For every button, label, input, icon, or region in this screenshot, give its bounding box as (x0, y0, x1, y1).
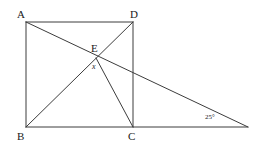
figure-segments (26, 22, 248, 127)
geometry-figure: A D E B C x 25° (0, 0, 259, 154)
vertex-label-A: A (17, 9, 25, 20)
angle-label-25-degrees: 25° (205, 114, 215, 121)
vertex-label-D: D (130, 9, 138, 20)
segment-EC (96, 58, 133, 127)
vertex-label-E: E (91, 43, 98, 54)
vertex-label-C: C (128, 131, 135, 142)
segment-diagonal-DB (26, 22, 133, 127)
segment-line-AF (26, 22, 248, 127)
angle-label-x: x (92, 63, 96, 71)
vertex-label-B: B (17, 131, 24, 142)
